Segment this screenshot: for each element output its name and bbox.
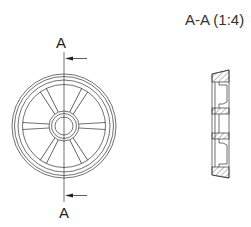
section-view-title: A-A (1:4) [185, 11, 244, 28]
hatch-top-rim [212, 70, 229, 82]
section-arrow-top [65, 57, 87, 61]
hatch-hub-bottom [212, 133, 229, 139]
section-arrow-bottom [65, 194, 87, 198]
hatch-hub-top [212, 108, 229, 114]
technical-drawing [0, 0, 251, 227]
hatch-bottom-rim [212, 167, 229, 178]
section-label-bottom: A [59, 205, 69, 220]
section-view-a-a [212, 70, 229, 178]
section-label-top: A [56, 35, 66, 50]
